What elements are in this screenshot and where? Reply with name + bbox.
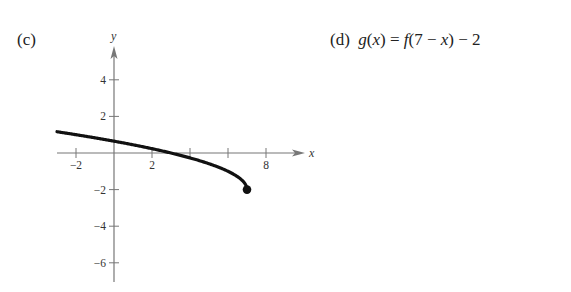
y-tick-label: 2 — [100, 110, 106, 122]
x-tick-label: −2 — [70, 159, 82, 171]
y-axis-label: y — [110, 29, 117, 43]
y-tick-label: −2 — [94, 184, 106, 196]
x-tick-label: 8 — [263, 159, 269, 171]
endpoint-dot — [243, 185, 252, 194]
x-axis-label: x — [308, 146, 315, 160]
y-tick-label: −6 — [94, 257, 106, 269]
graph-c: xy−22842−2−4−6 — [0, 0, 571, 292]
x-tick-label: 2 — [149, 159, 155, 171]
y-tick-label: 4 — [100, 74, 106, 86]
y-tick-label: −4 — [94, 220, 106, 232]
